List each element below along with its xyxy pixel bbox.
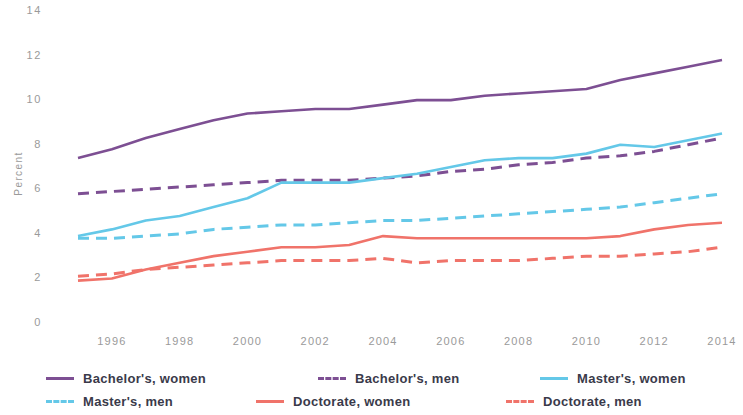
legend-label-bachelors-women: Bachelor's, women bbox=[83, 371, 206, 386]
legend-swatch-doctorate-women bbox=[256, 400, 284, 403]
legend-swatch-masters-women bbox=[540, 377, 568, 380]
legend-label-masters-men: Master's, men bbox=[83, 394, 173, 409]
legend-item-masters-women[interactable]: Master's, women bbox=[540, 367, 686, 390]
legend-swatch-masters-men bbox=[46, 400, 74, 403]
legend-item-doctorate-men[interactable]: Doctorate, men bbox=[506, 390, 642, 413]
series-line-master-s-women bbox=[78, 134, 722, 237]
legend-row-1: Bachelor's, women Bachelor's, men Master… bbox=[46, 367, 736, 390]
chart-container: Percent 14121086420 19961998200020022004… bbox=[0, 0, 743, 415]
series-line-doctorate-women bbox=[78, 223, 722, 281]
legend-item-bachelors-men[interactable]: Bachelor's, men bbox=[318, 367, 540, 390]
legend-item-bachelors-women[interactable]: Bachelor's, women bbox=[46, 367, 318, 390]
plot-area bbox=[0, 0, 743, 415]
series-line-bachelor-s-women bbox=[78, 60, 722, 158]
legend-label-masters-women: Master's, women bbox=[577, 371, 686, 386]
legend-swatch-doctorate-men bbox=[506, 400, 534, 403]
series-line-doctorate-men bbox=[78, 247, 722, 276]
series-line-bachelor-s-men bbox=[78, 138, 722, 194]
legend-label-doctorate-women: Doctorate, women bbox=[293, 394, 410, 409]
legend-label-doctorate-men: Doctorate, men bbox=[543, 394, 642, 409]
legend-row-2: Master's, men Doctorate, women Doctorate… bbox=[46, 390, 736, 413]
legend-swatch-bachelors-women bbox=[46, 377, 74, 380]
legend-label-bachelors-men: Bachelor's, men bbox=[355, 371, 459, 386]
legend-item-masters-men[interactable]: Master's, men bbox=[46, 390, 256, 413]
legend-item-doctorate-women[interactable]: Doctorate, women bbox=[256, 390, 506, 413]
legend-swatch-bachelors-men bbox=[318, 377, 346, 380]
chart-legend: Bachelor's, women Bachelor's, men Master… bbox=[46, 367, 736, 413]
